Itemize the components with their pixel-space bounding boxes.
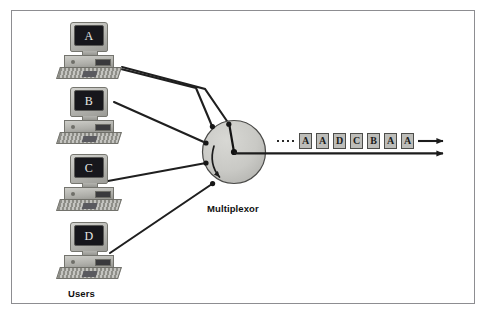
users-group-label: Users <box>68 288 95 299</box>
stream-cell: A <box>384 133 397 149</box>
keyboard-touchpad <box>82 271 98 277</box>
keyboard-touchpad <box>82 203 98 209</box>
keyboard <box>56 67 122 79</box>
screen-letter: D <box>85 230 94 242</box>
figure-page: A B C <box>0 0 489 320</box>
multiplexor-label: Multiplexor <box>207 203 259 214</box>
monitor-screen: D <box>74 225 104 246</box>
power-led-icon <box>71 260 75 264</box>
power-led-icon <box>71 192 75 196</box>
stream-cell: A <box>316 133 329 149</box>
stream-cell: D <box>333 133 346 149</box>
stream-cell: A <box>401 133 414 149</box>
ellipsis-dot <box>292 140 294 142</box>
keyboard <box>56 267 122 279</box>
keyboard-touchpad <box>82 136 98 142</box>
drive-slot <box>95 124 111 131</box>
stream-cell: A <box>299 133 312 149</box>
keyboard-touchpad <box>82 71 98 77</box>
stream-cell: C <box>350 133 363 149</box>
ellipsis-dot <box>277 140 279 142</box>
drive-slot <box>95 259 111 266</box>
screen-letter: B <box>85 95 93 107</box>
link-workstation-a <box>117 67 229 126</box>
workstation-b[interactable]: B <box>56 87 128 145</box>
drive-slot <box>95 191 111 198</box>
keyboard <box>56 199 122 211</box>
workstation-a[interactable]: A <box>56 22 128 80</box>
ellipsis-dot <box>287 140 289 142</box>
workstation-c[interactable]: C <box>56 154 128 212</box>
stream-cell: B <box>367 133 380 149</box>
keyboard <box>56 132 122 144</box>
monitor-screen: B <box>74 90 104 111</box>
workstation-d[interactable]: D <box>56 222 128 280</box>
screen-letter: A <box>85 30 94 42</box>
screen-letter: C <box>85 162 93 174</box>
power-led-icon <box>71 125 75 129</box>
monitor-screen: A <box>74 25 104 46</box>
power-led-icon <box>71 60 75 64</box>
ellipsis-dot <box>282 140 284 142</box>
monitor-screen: C <box>74 157 104 178</box>
drive-slot <box>95 59 111 66</box>
